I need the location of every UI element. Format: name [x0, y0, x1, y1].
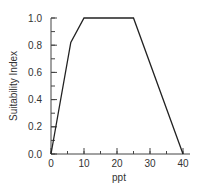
y-tick-label: 0.0	[28, 149, 42, 160]
y-axis-label: Suitability Index	[8, 51, 19, 121]
x-axis-label: ppt	[112, 172, 126, 183]
chart: 0.00.20.40.60.81.0 010203040 ppt Suitabi…	[0, 0, 200, 192]
x-axis: 010203040	[48, 148, 190, 169]
y-tick-label: 0.6	[28, 67, 42, 78]
series-line	[51, 18, 183, 154]
y-tick-label: 0.8	[28, 40, 42, 51]
x-tick-label: 40	[177, 158, 189, 169]
x-tick-label: 20	[111, 158, 123, 169]
x-tick-label: 10	[78, 158, 90, 169]
data-series	[51, 18, 183, 154]
y-axis: 0.00.20.40.60.81.0	[28, 13, 57, 160]
x-tick-label: 30	[144, 158, 156, 169]
x-tick-label: 0	[48, 158, 54, 169]
y-tick-label: 0.2	[28, 121, 42, 132]
y-tick-label: 0.4	[28, 94, 42, 105]
y-tick-label: 1.0	[28, 13, 42, 24]
